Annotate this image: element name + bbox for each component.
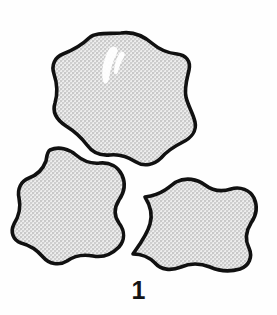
specimen-drawing	[0, 0, 277, 315]
specimen-top-outline	[53, 33, 195, 165]
specimen-group-lower-left	[12, 148, 124, 264]
figure-caption: 1	[0, 276, 277, 304]
specimen-group-lower-right	[133, 179, 256, 271]
figure-container: 1	[0, 0, 277, 315]
specimen-lower-left-outline	[12, 148, 124, 264]
specimen-lower-right-outline	[133, 179, 256, 271]
specimen-group-top	[53, 33, 195, 165]
